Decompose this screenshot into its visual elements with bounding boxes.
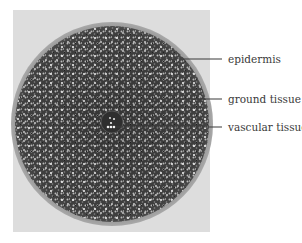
label-text-vascular-tissue: vascular tissue bbox=[227, 121, 302, 133]
root-section bbox=[11, 22, 213, 226]
label-text-epidermis: epidermis bbox=[228, 53, 281, 65]
vascular-tissue-core bbox=[101, 111, 123, 133]
label-text-ground-tissue: ground tissue bbox=[228, 93, 301, 105]
root-cross-section-figure: epidermis ground tissue vascular tissue bbox=[0, 0, 302, 243]
